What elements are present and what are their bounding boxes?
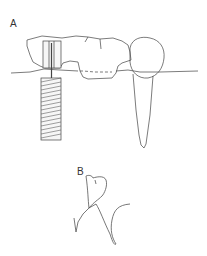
natural-tooth-root bbox=[133, 74, 153, 148]
implant-abutment bbox=[43, 41, 61, 82]
bridge-crown bbox=[27, 36, 131, 79]
dental-diagram bbox=[0, 0, 207, 256]
gum-line bbox=[11, 69, 198, 73]
implant-screw bbox=[41, 78, 61, 140]
panel-b-sketch bbox=[74, 175, 130, 244]
